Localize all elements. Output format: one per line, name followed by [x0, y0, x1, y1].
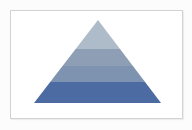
- pyramid-level-top: [11, 20, 182, 49]
- pyramid-level-lower-middle: [11, 66, 182, 82]
- pyramid-level-base: [11, 82, 182, 103]
- framed-image-card: [10, 10, 183, 119]
- pyramid-level-upper-middle: [11, 49, 182, 66]
- pyramid-diagram: [11, 11, 182, 118]
